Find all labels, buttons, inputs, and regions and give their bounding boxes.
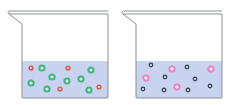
dark-particle-center [194,78,196,80]
green-particle-center [87,88,90,91]
green-particle-center [89,68,92,71]
green-particle-center [79,77,82,80]
pink-particle-center [175,85,179,89]
red-particle-center [98,86,100,88]
pink-particle-center [209,67,213,71]
dark-particle-center [164,76,166,78]
beaker-right [122,11,222,98]
dark-particle-center [150,64,152,66]
dark-particle-center [209,85,211,87]
beaker-left [8,11,108,98]
green-particle-center [40,66,43,69]
red-particle-center [30,67,32,69]
green-particle-center [29,81,32,84]
pink-particle-center [144,76,148,80]
dark-particle-center [186,66,188,68]
dark-particle-center [163,89,165,91]
green-particle-center [45,87,48,90]
red-particle-center [59,88,61,90]
two-beakers-diagram [0,0,228,105]
green-particle-center [65,79,68,82]
pink-particle-center [170,67,174,71]
dark-particle-center [187,89,189,91]
green-particle-center [50,75,53,78]
red-particle-center [67,67,69,69]
dark-particle-center [142,88,144,90]
